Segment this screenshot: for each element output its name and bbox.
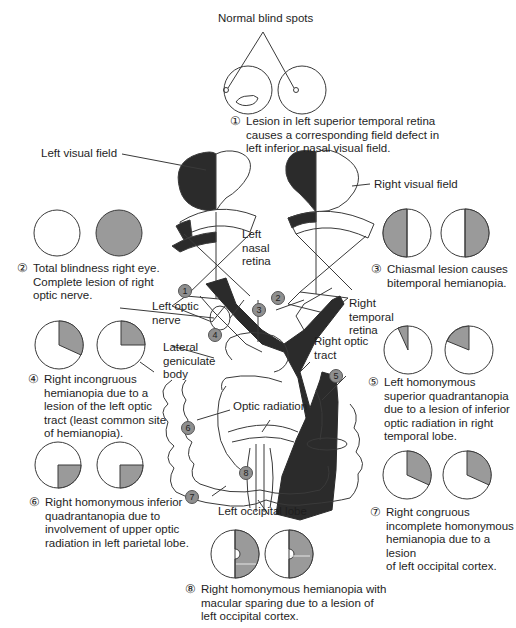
lesion-2-line: Total blindness right eye. — [33, 262, 160, 276]
lesion-8-line: Right homonymous hemianopia with — [201, 583, 386, 597]
lesion-6-line: quadrantanopia due to — [45, 510, 189, 524]
lesion-caption-1: ① Lesion in left superior temporal retin… — [246, 115, 439, 156]
field-defect-8 — [211, 530, 313, 578]
lesion-number-1: ① — [230, 115, 241, 129]
badge-4: 4 — [208, 328, 222, 342]
lesion-6-line: radiation in left parietal lobe. — [45, 537, 189, 551]
label-line: tract — [314, 349, 368, 363]
right-optic-tract-label: Right optic tract — [314, 335, 368, 362]
left-nasal-retina-label: Left nasal retina — [242, 228, 271, 269]
badge-6: 6 — [181, 421, 195, 435]
label-line: geniculate — [163, 355, 215, 369]
label-line: Lateral — [163, 341, 215, 355]
left-visual-field-label: Left visual field — [41, 147, 117, 161]
lesion-8-line: left occipital cortex. — [201, 610, 386, 624]
lesion-caption-7: ⑦ Right congruous incomplete homonymous … — [386, 506, 516, 574]
field-defect-5 — [384, 326, 493, 374]
badge-5: 5 — [329, 369, 343, 383]
normal-blind-spots-fields — [224, 32, 327, 114]
lesion-caption-5: ⑤ Left homonymous superior quadrantanopi… — [384, 376, 510, 444]
lesion-7-line: of left occipital cortex. — [386, 560, 516, 574]
optic-radiation-label: Optic radiation — [233, 400, 307, 414]
lesion-caption-8: ⑧ Right homonymous hemianopia with macul… — [201, 583, 386, 624]
lesion-caption-2: ② Total blindness right eye. Complete le… — [33, 262, 160, 303]
left-optic-nerve-label: Left optic nerve — [152, 300, 199, 327]
lateral-geniculate-body-label: Lateral geniculate body — [163, 341, 215, 382]
lesion-number-8: ⑧ — [185, 583, 196, 597]
lesion-number-3: ③ — [371, 263, 382, 277]
lesion-6-line: involvement of upper optic — [45, 523, 189, 537]
lesion-7-line: hemianopia due to a lesion — [386, 533, 516, 560]
field-defect-6 — [35, 442, 143, 488]
badge-2: 2 — [271, 291, 285, 305]
lesion-7-line: incomplete homonymous — [386, 520, 516, 534]
lesion-caption-4: ④ Right incongruous hemianopia due to a … — [44, 373, 166, 441]
normal-blind-spots-label: Normal blind spots — [218, 12, 313, 26]
label-line: nasal — [242, 242, 271, 256]
lesion-caption-6: ⑥ Right homonymous inferior quadrantanop… — [45, 496, 189, 550]
lesion-1-line: Lesion in left superior temporal retina — [246, 115, 439, 129]
label-line: body — [163, 368, 215, 382]
lesion-number-7: ⑦ — [370, 506, 381, 520]
field-defect-2 — [34, 210, 142, 256]
label-line: Right optic — [314, 335, 368, 349]
lesion-4-line: tract (least common site — [44, 414, 166, 428]
lesion-4-line: hemianopia due to a — [44, 387, 166, 401]
right-temporal-retina-label: Right temporal retina — [349, 297, 394, 338]
lesion-2-line: optic nerve. — [33, 289, 160, 303]
right-visual-field-blob — [286, 150, 370, 212]
badge-3: 3 — [252, 303, 266, 317]
lesion-5-line: due to a lesion of inferior — [384, 403, 510, 417]
left-occipital-lobe-label: Left occipital lobe — [218, 505, 307, 519]
lesion-4-line: lesion of the left optic — [44, 400, 166, 414]
field-defect-3 — [383, 209, 489, 257]
left-visual-field-blob — [122, 151, 250, 211]
lesion-number-2: ② — [17, 262, 28, 276]
label-line: Left — [242, 228, 271, 242]
lesion-5-line: temporal lobe. — [384, 430, 510, 444]
badge-1: 1 — [178, 284, 192, 298]
lesion-8-line: macular sparing due to a lesion of — [201, 597, 386, 611]
lesion-6-line: Right homonymous inferior — [45, 496, 189, 510]
label-line: nerve — [152, 314, 199, 328]
lesion-3-line: bitemporal hemianopia. — [387, 277, 508, 291]
field-defect-7 — [383, 451, 491, 499]
right-visual-field-label: Right visual field — [374, 178, 458, 192]
lesion-number-4: ④ — [28, 373, 39, 387]
lesion-1-line: causes a corresponding field defect in — [246, 129, 439, 143]
lesion-1-line: left inferior nasal visual field. — [246, 142, 439, 156]
lesion-4-line: Right incongruous — [44, 373, 166, 387]
label-line: temporal — [349, 311, 394, 325]
badge-8: 8 — [239, 466, 253, 480]
lesion-4-line: of hemianopia). — [44, 427, 166, 441]
lesion-caption-3: ③ Chiasmal lesion causes bitemporal hemi… — [387, 263, 508, 290]
lesion-5-line: Left homonymous — [384, 376, 510, 390]
lesion-number-5: ⑤ — [368, 376, 379, 390]
label-line: Right — [349, 297, 394, 311]
lesion-5-line: superior quadrantanopia — [384, 390, 510, 404]
lesion-3-line: Chiasmal lesion causes — [387, 263, 508, 277]
field-defect-4 — [35, 321, 145, 369]
label-line: retina — [242, 255, 271, 269]
lesion-5-line: optic radiation in right — [384, 417, 510, 431]
lesion-2-line: Complete lesion of right — [33, 276, 160, 290]
lesion-7-line: Right congruous — [386, 506, 516, 520]
lesion-number-6: ⑥ — [29, 496, 40, 510]
